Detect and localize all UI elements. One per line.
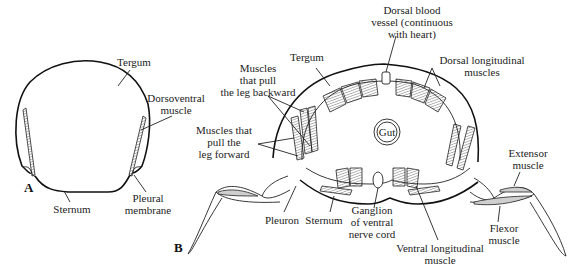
ventral-muscle-block xyxy=(393,168,405,186)
ventral-muscle-block xyxy=(350,168,362,186)
flexor-leader xyxy=(498,206,500,222)
dorsal-long-label-line1: Dorsal longitudinal xyxy=(439,54,524,66)
panel-a-body-outline xyxy=(16,61,150,173)
panel-b-ventral-inner xyxy=(306,168,470,184)
forward-muscle-label-line2: pull the xyxy=(207,136,240,148)
dorsal-vessel-leader xyxy=(386,36,396,72)
right-leg-coxa xyxy=(470,178,494,200)
forward-muscle-label-line3: leg forward xyxy=(198,148,250,160)
backward-muscle-leader xyxy=(268,96,304,112)
forward-muscle-label-line1: Muscles that xyxy=(196,124,252,136)
ventral-longitudinal-muscle-bar xyxy=(320,186,352,195)
panel-a-tergum-leader xyxy=(118,70,130,86)
ventral-nerve-ganglion xyxy=(373,172,383,188)
right-leg-flexor-muscle xyxy=(474,196,532,205)
panel-a-tergum-label: Tergum xyxy=(117,56,151,68)
panel-b-label: B xyxy=(174,240,183,255)
dorsal-blood-vessel xyxy=(382,72,390,84)
panel-b-sternum-label: Sternum xyxy=(305,214,343,226)
insect-segment-cross-section-diagram: Tergum Dorsoventral muscle Sternum Pleur… xyxy=(0,0,574,271)
flexor-label-line1: Flexor xyxy=(490,222,519,234)
pleuron-leader xyxy=(284,186,296,212)
ventral-long-label-line2: muscle xyxy=(424,254,455,266)
ganglion-label-line2: of ventral xyxy=(351,216,393,228)
panel-b: Gut Tergum Dorsal blood vessel ( xyxy=(174,4,566,266)
ventral-long-leader xyxy=(416,186,438,240)
pleuron-label: Pleuron xyxy=(265,214,300,226)
right-leg-extensor-muscle xyxy=(500,187,532,192)
extensor-label-line2: muscle xyxy=(512,159,543,171)
panel-a-lower-outline xyxy=(35,175,130,192)
forward-muscle-leader xyxy=(258,144,298,156)
dorsal-vessel-label-line1: Dorsal blood xyxy=(383,4,441,16)
panel-a-dorsoventral-label-line1: Dorsoventral xyxy=(147,92,204,104)
ventral-muscle-block xyxy=(336,168,350,188)
backward-muscle-label-line1: Muscles xyxy=(240,62,277,74)
left-leg-coxa xyxy=(262,176,290,198)
backward-muscle-label-line3: the leg backward xyxy=(220,86,296,98)
extensor-label-line1: Extensor xyxy=(508,147,547,159)
panel-a-label: A xyxy=(24,180,34,195)
dorsal-vessel-label-line3: with heart) xyxy=(388,28,436,41)
panel-a-pleural-leader xyxy=(134,175,146,192)
flexor-label-line2: muscle xyxy=(488,234,519,246)
ventral-long-label-line1: Ventral longitudinal xyxy=(396,242,484,254)
ganglion-label-line1: Ganglion xyxy=(352,204,393,216)
panel-a-left-dorsoventral-muscle xyxy=(23,108,35,176)
panel-a-dorsoventral-label-line2: muscle xyxy=(160,104,191,116)
dorsal-longitudinal-muscle xyxy=(359,79,378,97)
panel-a-pleural-label-line2: membrane xyxy=(125,204,172,216)
left-leg-tibia xyxy=(188,192,222,254)
backward-muscle-label-line2: that pull xyxy=(240,74,276,86)
dorsal-long-label-line2: muscles xyxy=(464,66,499,78)
ventral-muscle-block xyxy=(407,168,419,188)
dorsal-longitudinal-muscle xyxy=(396,79,412,97)
extensor-leader xyxy=(514,172,520,186)
panel-b-tergum-label: Tergum xyxy=(290,51,324,63)
right-backward-leg-muscle xyxy=(446,124,461,166)
panel-a-sternum-label: Sternum xyxy=(53,203,91,215)
ganglion-label-line3: nerve cord xyxy=(349,228,396,240)
panel-a: Tergum Dorsoventral muscle Sternum Pleur… xyxy=(16,56,205,216)
right-leg-tibia xyxy=(530,194,566,256)
panel-a-pleural-label-line1: Pleural xyxy=(132,192,163,204)
gut-label: Gut xyxy=(379,126,396,138)
